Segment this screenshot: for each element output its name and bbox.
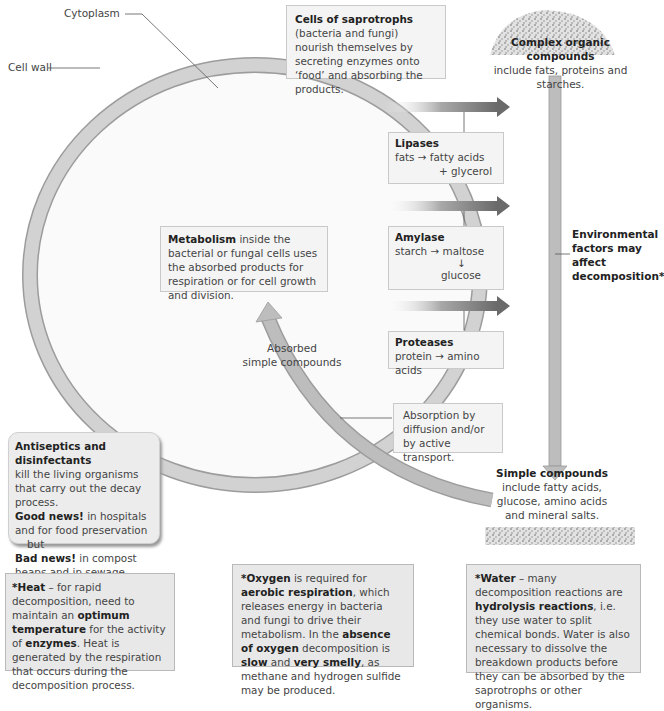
complex-compounds-label: Complex organic compounds include fats, … <box>478 35 643 91</box>
saprotrophs-box: Cells of saprotrophs (bacteria and fungi… <box>286 5 446 79</box>
bold-term: enzymes <box>25 637 76 649</box>
complex-compounds-title: Complex organic compounds <box>478 35 643 63</box>
bad-news: Bad news! <box>15 552 76 564</box>
text-run: is required for <box>291 572 367 584</box>
amylase-box: Amylase starch → maltose ↓ glucose <box>388 226 504 290</box>
oxygen-factor-text: *Oxygen is required for aerobic respirat… <box>241 572 401 696</box>
lipases-reaction: fats → fatty acids <box>395 150 497 164</box>
bold-term: hydrolysis reactions <box>475 600 593 612</box>
text-run: and <box>267 656 293 668</box>
absorbed-line: simple compounds <box>232 355 352 369</box>
bold-term: very smelly <box>294 656 361 668</box>
heat-factor-box: *Heat – for rapid decomposition, need to… <box>5 573 175 671</box>
simple-line: include fatty acids, <box>482 480 622 494</box>
absorption-line: Absorption by <box>403 408 493 422</box>
absorbed-line: Absorbed <box>232 341 352 355</box>
bold-term: *Oxygen <box>241 572 291 584</box>
simple-line: and mineral salts. <box>482 508 622 522</box>
cytoplasm-label: Cytoplasm <box>64 7 120 19</box>
simple-compounds-title: Simple compounds <box>482 466 622 480</box>
proteases-reaction: protein → amino acids <box>395 349 497 377</box>
absorption-line: diffusion and/or <box>403 422 493 436</box>
absorbed-label: Absorbed simple compounds <box>232 341 352 369</box>
cell-wall-label: Cell wall <box>8 61 52 73</box>
metabolism-box: Metabolism inside the bacterial or funga… <box>160 226 328 292</box>
bold-term: *Heat <box>12 581 45 593</box>
lipases-title: Lipases <box>395 136 497 150</box>
text-run: , i.e. they use water to split chemical … <box>475 600 630 710</box>
bold-term: slow <box>241 656 267 668</box>
bold-term: *Water <box>475 572 516 584</box>
bold-term: aerobic respiration <box>241 586 353 598</box>
lipases-box: Lipases fats → fatty acids + glycerol <box>388 132 504 184</box>
simple-compounds-layer <box>485 527 635 545</box>
absorption-line: by active transport. <box>403 436 493 464</box>
env-line: affect <box>572 255 664 269</box>
down-arrow-icon: ↓ <box>395 258 497 268</box>
saprotrophs-bold: Cells of saprotrophs <box>295 13 413 25</box>
amylase-reaction: starch → maltose <box>395 244 497 258</box>
env-line: decomposition* <box>572 269 664 283</box>
complex-compounds-text: include fats, proteins and starches. <box>478 63 643 91</box>
amylase-product: glucose <box>395 268 497 282</box>
antiseptics-box: Antiseptics and disinfectants kill the l… <box>8 432 160 544</box>
simple-line: glucose, amino acids <box>482 494 622 508</box>
metabolism-bold: Metabolism <box>168 233 236 245</box>
simple-compounds-label: Simple compounds include fatty acids, gl… <box>482 466 622 522</box>
environmental-factors-label: Environmental factors may affect decompo… <box>572 227 664 283</box>
text-run: decomposition is <box>299 642 390 654</box>
water-factor-text: *Water – many decomposition reactions ar… <box>475 572 630 710</box>
antiseptics-text: kill the living organisms that carry out… <box>15 468 141 508</box>
lipases-product: + glycerol <box>395 164 497 178</box>
amylase-title: Amylase <box>395 230 497 244</box>
antiseptics-title: Antiseptics and disinfectants <box>15 440 106 466</box>
absorption-box: Absorption by diffusion and/or by active… <box>393 403 503 453</box>
but-text: but <box>15 538 44 550</box>
oxygen-factor-box: *Oxygen is required for aerobic respirat… <box>232 564 414 667</box>
good-news: Good news! <box>15 510 84 522</box>
proteases-title: Proteases <box>395 335 497 349</box>
env-line: factors may <box>572 241 664 255</box>
proteases-box: Proteases protein → amino acids <box>388 331 504 369</box>
env-line: Environmental <box>572 227 664 241</box>
water-factor-box: *Water – many decomposition reactions ar… <box>466 564 641 673</box>
